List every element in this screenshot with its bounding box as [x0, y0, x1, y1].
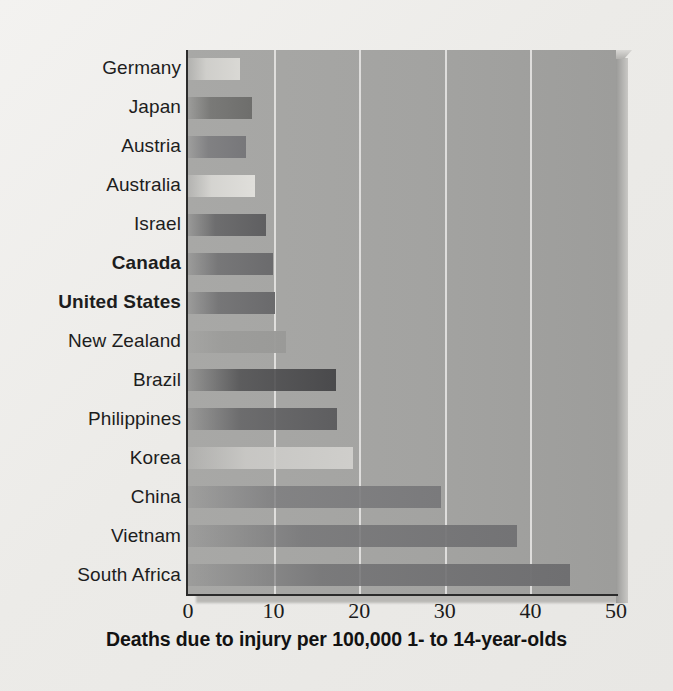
bar — [188, 136, 246, 158]
bar-row — [188, 245, 616, 284]
bar — [188, 369, 336, 391]
x-axis-line — [186, 594, 618, 596]
chart-figure: GermanyJapanAustriaAustraliaIsraelCanada… — [0, 0, 673, 691]
bar — [188, 331, 286, 353]
category-labels: GermanyJapanAustriaAustraliaIsraelCanada… — [0, 50, 181, 595]
bar-row — [188, 323, 616, 362]
category-label-south-africa: South Africa — [1, 564, 181, 586]
bar-row — [188, 50, 616, 89]
category-label-united-states: United States — [1, 291, 181, 313]
chart-caption: Deaths due to injury per 100,000 1- to 1… — [0, 628, 673, 651]
bar-row — [188, 167, 616, 206]
bar — [188, 564, 570, 586]
x-tick-0: 0 — [183, 598, 194, 624]
plot-area-bevel-right — [616, 58, 628, 603]
category-label-austria: Austria — [1, 135, 181, 157]
bar-row — [188, 478, 616, 517]
category-label-australia: Australia — [1, 174, 181, 196]
bar-row — [188, 517, 616, 556]
bar — [188, 214, 266, 236]
x-tick-10: 10 — [263, 598, 285, 624]
category-label-philippines: Philippines — [1, 408, 181, 430]
x-tick-30: 30 — [434, 598, 456, 624]
bar — [188, 58, 240, 80]
bar-row — [188, 284, 616, 323]
bar-row — [188, 89, 616, 128]
bar-row — [188, 128, 616, 167]
category-label-new-zealand: New Zealand — [1, 330, 181, 352]
category-label-canada: Canada — [1, 252, 181, 274]
x-tick-50: 50 — [605, 598, 627, 624]
category-label-brazil: Brazil — [1, 369, 181, 391]
bar — [188, 525, 517, 547]
category-label-israel: Israel — [1, 213, 181, 235]
bar — [188, 253, 273, 275]
category-label-korea: Korea — [1, 447, 181, 469]
bar — [188, 408, 337, 430]
category-label-vietnam: Vietnam — [1, 525, 181, 547]
bar — [188, 447, 353, 469]
bar — [188, 97, 252, 119]
bar-row — [188, 361, 616, 400]
plot-area — [188, 50, 616, 595]
bar-row — [188, 556, 616, 595]
bar — [188, 486, 441, 508]
bar-row — [188, 439, 616, 478]
bar-row — [188, 206, 616, 245]
x-tick-40: 40 — [519, 598, 541, 624]
y-axis-line — [186, 50, 188, 596]
bar — [188, 292, 275, 314]
category-label-germany: Germany — [1, 57, 181, 79]
category-label-china: China — [1, 486, 181, 508]
x-tick-20: 20 — [348, 598, 370, 624]
category-label-japan: Japan — [1, 96, 181, 118]
bar — [188, 175, 255, 197]
bar-row — [188, 400, 616, 439]
